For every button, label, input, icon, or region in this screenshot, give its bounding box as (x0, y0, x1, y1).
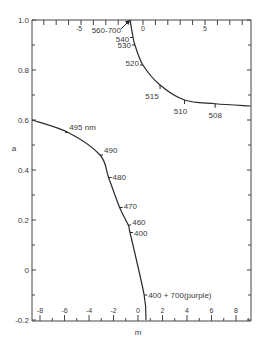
wavelength-label: 470 (124, 202, 138, 211)
wavelength-label: 515 (145, 92, 159, 101)
wavelength-label: 495 nm (69, 123, 96, 132)
wavelength-label: 530 (118, 41, 132, 50)
chromaticity-chart: 1.00.80.60.40.20-0.2 -8-6-4-202468 -505 … (0, 0, 265, 345)
wavelength-label: 480 (113, 173, 127, 182)
arrow-annotation (121, 20, 130, 29)
y-tick-label: 0.4 (18, 166, 30, 175)
x-axis-label: m (135, 328, 142, 337)
wavelength-label: 400 + 700(purple) (148, 291, 212, 300)
x-tick-label: -8 (37, 307, 43, 314)
top-tick-label: 0 (141, 25, 145, 32)
y-tick-label: 0.2 (18, 216, 30, 225)
x-tick-label: -4 (86, 307, 92, 314)
wavelength-label: 490 (104, 146, 118, 155)
x-tick-label: 8 (234, 307, 238, 314)
y-tick-label: -0.2 (15, 316, 29, 325)
bottom-x-axis-ticks: -8-6-4-202468 (37, 307, 248, 321)
wavelength-label: 508 (208, 111, 222, 120)
x-tick-label: 0 (136, 307, 140, 314)
x-tick-label: 2 (161, 307, 165, 314)
top-tick-label: -5 (76, 25, 82, 32)
x-tick-label: 6 (210, 307, 214, 314)
y-tick-label: 0.6 (18, 116, 30, 125)
wavelength-label: 400 (134, 229, 148, 238)
x-tick-label: -2 (110, 307, 116, 314)
right-axis-ticks (247, 20, 251, 320)
x-tick-label: -6 (61, 307, 67, 314)
y-tick-label: 0 (25, 266, 30, 275)
top-tick-label: 5 (203, 25, 207, 32)
y-axis-ticks: 1.00.80.60.40.20-0.2 (15, 16, 36, 325)
wavelength-label: 460 (132, 218, 146, 227)
wavelength-label: 510 (174, 107, 188, 116)
y-axis-label: a (12, 144, 17, 153)
y-tick-label: 0.8 (18, 66, 30, 75)
curve-lower-branch (32, 120, 146, 320)
top-x-axis-ticks: -505 (44, 20, 242, 32)
y-tick-label: 1.0 (18, 16, 30, 25)
x-tick-label: 4 (185, 307, 189, 314)
wavelength-label: 520 (126, 59, 140, 68)
